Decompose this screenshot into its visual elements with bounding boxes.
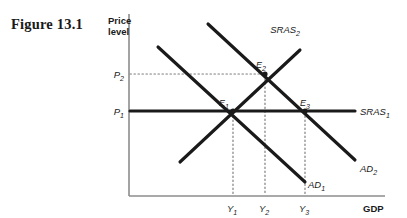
curve-ad1-base: AD [307,179,321,190]
x-tick-y3-sub: 3 [305,209,309,216]
y-tick-label-p1: P1 [114,106,124,119]
y-axis-title-line2: level [108,26,129,37]
equilibrium-e1-sub: 1 [225,103,229,110]
curve-sras2-base: SRAS [270,24,297,35]
curve-sras2 [180,50,300,162]
equilibrium-label-e2: E2 [256,60,266,72]
curve-label-sras1: SRAS1 [360,106,390,119]
y-tick-p2-sub: 2 [119,75,124,82]
figure-container: Figure 13.1 Price level [0,0,407,218]
curve-sras2-sub: 2 [295,30,300,37]
curve-label-ad2: AD2 [359,163,377,176]
x-tick-label-y3: Y3 [299,203,309,216]
x-tick-y1-sub: 1 [233,209,237,216]
equilibrium-label-e1: E1 [219,98,229,110]
y-axis-title-line1: Price [108,15,131,26]
x-tick-label-y1: Y1 [227,203,237,216]
ad-sras-diagram: Price level GDP P2 P1 Y1 Y2 Y3 SRAS2 SRA… [0,0,407,218]
curve-label-sras2: SRAS2 [270,24,300,37]
curve-ad2-base: AD [359,163,373,174]
curve-ad1-sub: 1 [321,185,325,192]
curve-sras1-base: SRAS [360,106,387,117]
equilibrium-e3-sub: 3 [306,103,310,110]
guide-lines-group [130,74,305,194]
equilibrium-label-e3: E3 [300,98,310,110]
curve-ad2 [208,24,355,160]
x-tick-y2-sub: 2 [264,209,269,216]
curve-label-ad1: AD1 [307,179,325,192]
curve-ad2-sub: 2 [372,169,377,176]
x-tick-label-y2: Y2 [259,203,269,216]
y-tick-label-p2: P2 [114,69,124,82]
y-tick-p1-sub: 1 [120,112,124,119]
curves-group [130,24,355,182]
equilibrium-dot-e1 [230,108,235,113]
equilibrium-dot-e2 [262,71,267,76]
axes-group [129,14,385,196]
x-axis-title: GDP [363,203,384,214]
curve-sras1-sub: 1 [386,112,390,119]
equilibrium-e2-sub: 2 [261,65,266,72]
